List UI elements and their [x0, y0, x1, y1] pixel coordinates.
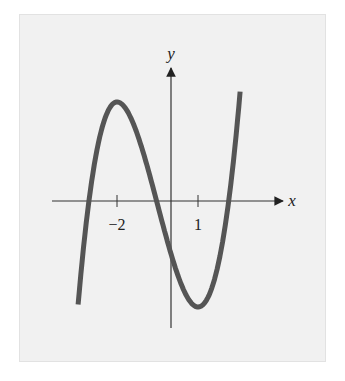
y-axis-label: y	[165, 44, 175, 63]
cubic-curve	[78, 92, 240, 307]
cubic-graph: −2 1 x y	[0, 0, 345, 381]
tick-label-neg2: −2	[108, 216, 125, 233]
x-axis-label: x	[287, 191, 296, 210]
tick-label-1: 1	[194, 216, 202, 233]
